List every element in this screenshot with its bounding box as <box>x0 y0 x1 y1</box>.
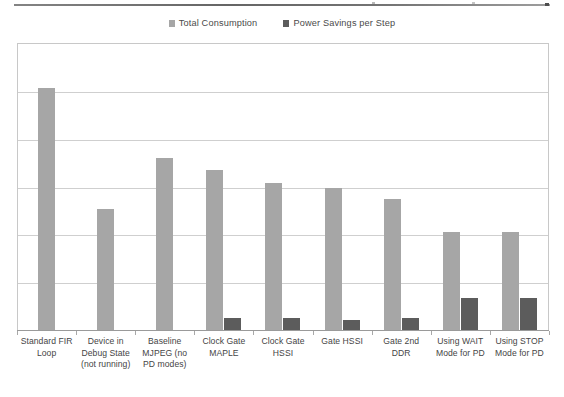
x-axis-tick <box>431 331 432 335</box>
bar-power-savings[interactable] <box>224 318 241 330</box>
x-axis-tick <box>135 331 136 335</box>
bar-total-consumption[interactable] <box>156 158 173 330</box>
x-axis-label-line: Debug State <box>76 348 135 360</box>
bar-power-savings[interactable] <box>283 318 300 330</box>
x-axis-tick <box>194 331 195 335</box>
x-axis-label-line: Mode for PD <box>431 348 490 360</box>
bar-chart: Total ConsumptionPower Savings per Step … <box>0 0 564 397</box>
chart-legend: Total ConsumptionPower Savings per Step <box>0 16 564 30</box>
x-axis-label-line: MJPEG (no <box>135 348 194 360</box>
x-axis-tick <box>17 331 18 335</box>
x-axis-label-line: Baseline <box>135 336 194 348</box>
bar-total-consumption[interactable] <box>265 183 282 330</box>
legend-label: Total Consumption <box>179 18 258 28</box>
bar-group <box>253 43 312 330</box>
bar-total-consumption[interactable] <box>38 88 55 330</box>
bar-power-savings[interactable] <box>343 320 360 330</box>
x-axis-label-line: Using WAIT <box>431 336 490 348</box>
x-axis-label-line: Device in <box>76 336 135 348</box>
x-axis-tick <box>253 331 254 335</box>
x-axis-line <box>17 330 549 331</box>
x-axis-label-line: DDR <box>372 348 431 360</box>
x-axis-tick <box>372 331 373 335</box>
x-axis-label-5: Gate HSSI <box>313 336 372 348</box>
legend-entry-0[interactable]: Total Consumption <box>169 18 258 28</box>
bar-group <box>76 43 135 330</box>
x-axis-label-line: Gate HSSI <box>313 336 372 348</box>
x-axis-label-line: PD modes) <box>135 359 194 371</box>
bar-power-savings[interactable] <box>402 318 419 330</box>
bar-group <box>313 43 372 330</box>
x-axis-label-line: Clock Gate <box>253 336 312 348</box>
x-axis-label-6: Gate 2ndDDR <box>372 336 431 359</box>
x-axis-label-7: Using WAITMode for PD <box>431 336 490 359</box>
legend-entry-1[interactable]: Power Savings per Step <box>283 18 395 28</box>
legend-swatch-icon <box>283 20 289 27</box>
bar-group <box>431 43 490 330</box>
x-axis-label-line: HSSI <box>253 348 312 360</box>
bar-total-consumption[interactable] <box>97 209 114 330</box>
x-axis-tick <box>490 331 491 335</box>
bar-power-savings[interactable] <box>520 298 537 330</box>
x-axis-label-line: Clock Gate <box>194 336 253 348</box>
bar-total-consumption[interactable] <box>502 232 519 330</box>
x-axis-label-8: Using STOPMode for PD <box>490 336 549 359</box>
bar-group <box>372 43 431 330</box>
bar-total-consumption[interactable] <box>384 199 401 330</box>
bar-group <box>135 43 194 330</box>
x-axis-label-line: MAPLE <box>194 348 253 360</box>
x-axis-label-line: Using STOP <box>490 336 549 348</box>
x-axis-label-line: Gate 2nd <box>372 336 431 348</box>
x-axis-label-2: BaselineMJPEG (noPD modes) <box>135 336 194 371</box>
x-axis-tick <box>549 331 550 335</box>
x-axis-label-line: (not running) <box>76 359 135 371</box>
bars-layer <box>17 43 549 330</box>
x-axis-label-line: Loop <box>17 348 76 360</box>
x-axis-label-1: Device inDebug State(not running) <box>76 336 135 371</box>
bar-total-consumption[interactable] <box>206 170 223 330</box>
legend-label: Power Savings per Step <box>293 18 395 28</box>
x-axis-label-3: Clock GateMAPLE <box>194 336 253 359</box>
x-axis-tick <box>313 331 314 335</box>
legend-swatch-icon <box>169 20 175 27</box>
bar-group <box>194 43 253 330</box>
x-axis-label-line: Mode for PD <box>490 348 549 360</box>
bar-total-consumption[interactable] <box>325 188 342 330</box>
x-axis-label-0: Standard FIRLoop <box>17 336 76 359</box>
bar-total-consumption[interactable] <box>443 232 460 330</box>
bar-group <box>17 43 76 330</box>
x-axis-category-labels: Standard FIRLoopDevice inDebug State(not… <box>17 336 549 394</box>
x-axis-label-line: Standard FIR <box>17 336 76 348</box>
bar-power-savings[interactable] <box>461 298 478 330</box>
x-axis-label-4: Clock GateHSSI <box>253 336 312 359</box>
x-axis-tick <box>76 331 77 335</box>
bar-group <box>490 43 549 330</box>
